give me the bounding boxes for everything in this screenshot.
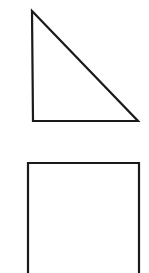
- triangle-shape: [32, 11, 138, 121]
- square-shape: [28, 163, 139, 273]
- diagram-canvas: [0, 0, 149, 273]
